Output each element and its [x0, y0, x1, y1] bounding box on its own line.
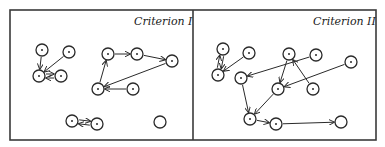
arrow-edge [280, 61, 287, 83]
node-center-dot-icon [249, 118, 251, 120]
panel-criterion-2: Criterion II [212, 15, 376, 130]
node-group [212, 43, 357, 130]
node-center-dot-icon [277, 88, 279, 90]
node-center-dot-icon [171, 60, 173, 62]
criterion-diagram: Criterion I Criterion II [0, 0, 385, 147]
node-center-dot-icon [60, 75, 62, 77]
node-center-dot-icon [288, 53, 290, 55]
node-center-dot-icon [240, 77, 242, 79]
arrow-edge [44, 56, 63, 71]
panel-criterion-1: Criterion I [33, 15, 193, 130]
node-center-dot-icon [97, 88, 99, 90]
node-center-dot-icon [132, 88, 134, 90]
graph-node [154, 116, 166, 128]
node-center-dot-icon [222, 48, 224, 50]
node-group [33, 44, 178, 130]
panel-title: Criterion I [134, 15, 193, 28]
node-center-dot-icon [275, 123, 277, 125]
node-center-dot-icon [107, 53, 109, 55]
arrow-edge [248, 57, 310, 76]
arrow-edge [224, 57, 244, 71]
node-center-dot-icon [248, 52, 250, 54]
node-center-dot-icon [68, 51, 70, 53]
node-center-dot-icon [350, 61, 352, 63]
arrow-edge [144, 55, 165, 59]
node-center-dot-icon [315, 54, 317, 56]
arrow-edge [100, 61, 106, 83]
node-center-dot-icon [38, 75, 40, 77]
node-center-dot-icon [136, 53, 138, 55]
node-center-dot-icon [41, 49, 43, 51]
node-center-dot-icon [71, 120, 73, 122]
arrow-edge [79, 124, 90, 125]
graph-node [335, 116, 347, 128]
arrow-edge [243, 85, 249, 112]
node-center-dot-icon [217, 74, 219, 76]
node-center-dot-icon [312, 88, 314, 90]
arrow-edge [217, 55, 219, 67]
arrow-edge [257, 120, 269, 122]
panel-title: Criterion II [313, 15, 376, 28]
arrow-edge [79, 120, 90, 121]
node-center-dot-icon [96, 123, 98, 125]
arrow-edge [221, 56, 223, 68]
arrow-edge [255, 94, 273, 114]
arrow-edge [40, 57, 41, 69]
arrow-edge [293, 60, 309, 83]
arrow-edge [283, 122, 334, 124]
